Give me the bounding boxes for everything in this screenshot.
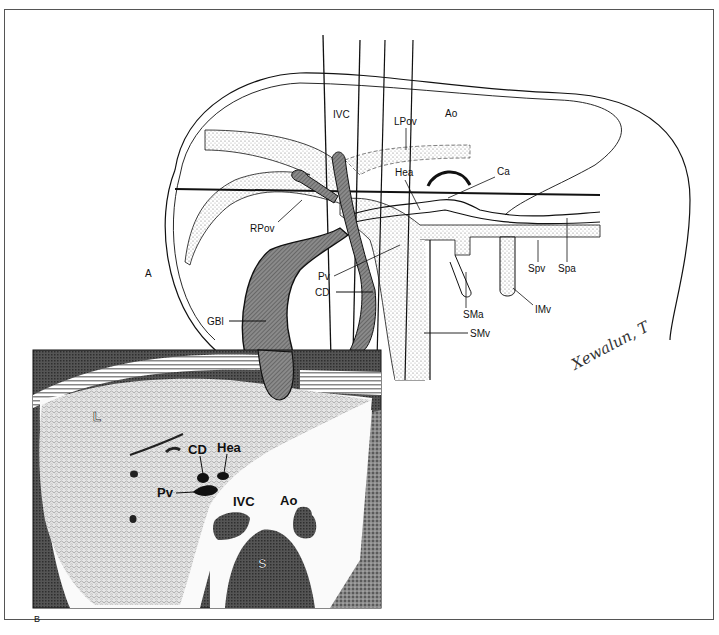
artist-signature: Xewalun, T — [568, 317, 653, 374]
smv-stipple — [390, 240, 430, 380]
label-hea: Hea — [395, 167, 414, 178]
ct-vessel-dot-2 — [130, 515, 137, 523]
superior-mesenteric-artery — [450, 255, 471, 297]
panel-b: L CD Hea Pv IVC Ao S B — [33, 350, 381, 624]
celiac-arch — [428, 172, 470, 186]
label-spv: Spv — [528, 263, 545, 274]
panel-label-a: A — [145, 268, 152, 279]
label-imv: IMv — [535, 304, 551, 315]
ct-label-hea: Hea — [217, 440, 242, 455]
label-smv: SMv — [470, 328, 490, 339]
ct-label-ivc: IVC — [233, 494, 255, 509]
label-ca: Ca — [497, 166, 510, 177]
label-pv: Pv — [318, 271, 330, 282]
label-sma: SMa — [463, 309, 484, 320]
ct-label-pv: Pv — [157, 485, 174, 500]
label-rpov: RPov — [250, 223, 274, 234]
ct-hea-structure — [217, 472, 229, 480]
panel-label-b: B — [34, 614, 40, 624]
panel-a: A IVC LPov Ao Hea Ca RPov Pv CD GBl Spv … — [145, 35, 690, 400]
label-ivc: IVC — [333, 109, 350, 120]
ct-cd-structure — [197, 473, 209, 483]
anatomy-figure: A IVC LPov Ao Hea Ca RPov Pv CD GBl Spv … — [0, 0, 719, 635]
label-ao: Ao — [445, 108, 458, 119]
label-lpov: LPov — [394, 116, 417, 127]
inferior-mesenteric-vein-branch — [500, 237, 515, 296]
ct-label-s: S — [258, 556, 267, 571]
ct-label-ao: Ao — [280, 493, 297, 508]
ct-label-l: L — [93, 409, 101, 424]
ivc-left-wall — [323, 35, 332, 400]
ct-label-cd: CD — [188, 442, 207, 457]
label-gbl: GBl — [207, 316, 224, 327]
label-spa: Spa — [558, 263, 576, 274]
ct-vessel-dot-1 — [130, 471, 138, 478]
ct-fat-layer-right — [300, 370, 381, 395]
label-cd: CD — [315, 287, 329, 298]
